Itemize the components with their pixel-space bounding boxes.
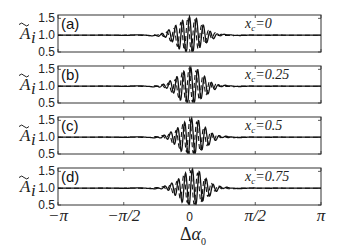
y-axis-label: A <box>19 24 31 43</box>
y-tick-label: 1.0 <box>38 181 55 195</box>
y-axis-label-sub: i <box>31 79 36 98</box>
x-tick-label: −π/2 <box>107 206 141 225</box>
y-tick-label: 0.5 <box>38 45 55 59</box>
xc-annotation: xc=0.75 <box>244 169 289 186</box>
panel-label: (a) <box>61 15 79 32</box>
xc-annotation: xc=0.25 <box>244 67 289 84</box>
xc-annotation: xc=0.5 <box>244 118 282 135</box>
y-tick-label: 1.5 <box>38 113 55 127</box>
xc-annotation: xc=0 <box>244 16 272 33</box>
panel-label: (c) <box>61 117 79 134</box>
y-tick-label: 1.0 <box>38 28 55 42</box>
y-tick-label: 1.0 <box>38 130 55 144</box>
dashed-curve <box>58 18 321 51</box>
chart-figure: 1.51.00.5Ai(a)xc=01.51.00.5Ai(b)xc=0.251… <box>0 0 338 251</box>
panel-label: (d) <box>61 168 79 185</box>
y-tick-label: 0.5 <box>38 96 55 110</box>
y-axis-label-sub: i <box>31 28 36 47</box>
y-tick-label: 1.5 <box>38 164 55 178</box>
y-tick-label: 1.5 <box>38 62 55 76</box>
y-tick-label: 1.5 <box>38 11 55 25</box>
y-axis-label-sub: i <box>31 130 36 149</box>
y-axis-label: A <box>19 75 31 94</box>
x-tick-label: 0 <box>186 210 193 224</box>
panel-a: 1.51.00.5Ai(a)xc=0 <box>19 11 321 59</box>
panel-frame <box>58 15 321 52</box>
y-tick-label: 1.0 <box>38 79 55 93</box>
panel-c: 1.51.00.5Ai(c)xc=0.5 <box>19 113 321 161</box>
y-axis-label: A <box>19 177 31 196</box>
x-tick-label: −π <box>48 206 68 225</box>
panel-label: (b) <box>61 66 79 83</box>
y-axis-label-sub: i <box>31 181 36 200</box>
panel-b: 1.51.00.5Ai(b)xc=0.25 <box>19 62 321 110</box>
y-axis-label: A <box>19 126 31 145</box>
y-tick-label: 0.5 <box>38 147 55 161</box>
solid-curve <box>58 17 321 51</box>
x-tick-label: π <box>317 206 326 225</box>
panel-d: 1.51.00.5Ai(d)xc=0.75 <box>19 164 321 212</box>
x-axis-label: Δα0 <box>180 224 206 247</box>
x-tick-label: π/2 <box>244 206 266 225</box>
